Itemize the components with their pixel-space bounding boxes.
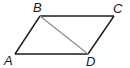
side-cd <box>88 16 114 54</box>
parallelogram-diagram: B C A D <box>0 0 130 68</box>
side-ab <box>15 16 40 54</box>
vertex-label-d: D <box>86 54 95 68</box>
diagram-svg: B C A D <box>0 0 130 68</box>
diagonal-bd <box>40 16 88 54</box>
vertex-label-a: A <box>3 53 13 68</box>
vertex-label-c: C <box>113 1 123 16</box>
vertex-label-b: B <box>33 0 42 15</box>
